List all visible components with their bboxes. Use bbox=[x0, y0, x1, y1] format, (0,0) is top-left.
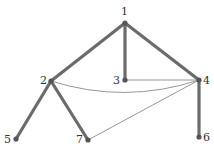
node-label-5: 5 bbox=[4, 133, 11, 146]
edge-1-4 bbox=[125, 23, 199, 80]
graph-diagram: 1234567 bbox=[0, 0, 214, 149]
node-label-7: 7 bbox=[76, 133, 83, 146]
node-3 bbox=[122, 77, 127, 82]
node-7 bbox=[85, 137, 90, 142]
node-label-3: 3 bbox=[113, 74, 120, 87]
edge-2-5 bbox=[16, 81, 51, 139]
node-label-2: 2 bbox=[40, 74, 47, 87]
node-4 bbox=[196, 77, 201, 82]
node-1 bbox=[122, 20, 127, 25]
node-6 bbox=[196, 134, 201, 139]
edge-2-7 bbox=[51, 81, 88, 140]
node-label-1: 1 bbox=[121, 5, 128, 18]
node-5 bbox=[13, 136, 18, 141]
edge-1-2 bbox=[51, 23, 125, 81]
node-label-4: 4 bbox=[203, 74, 210, 87]
labels: 1234567 bbox=[4, 5, 210, 146]
edge-7-4 bbox=[88, 80, 199, 140]
node-label-6: 6 bbox=[203, 131, 210, 144]
node-2 bbox=[48, 78, 53, 83]
